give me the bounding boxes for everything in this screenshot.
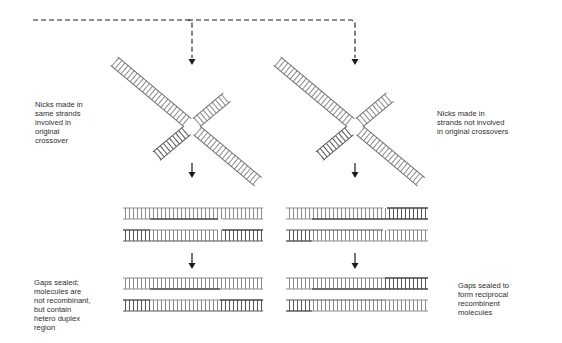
label-line: recombinent (458, 299, 509, 308)
label-line: Gaps sealed to (458, 281, 509, 290)
dashed-connector (33, 20, 359, 65)
label-right-nicks: Nicks made in strands not involved in or… (437, 109, 508, 136)
left-crossover (111, 57, 262, 186)
right-crossover (274, 57, 425, 186)
arrow-down-icon (189, 263, 196, 269)
label-line: Nicks made in (35, 100, 83, 109)
label-line: same strands (35, 109, 83, 118)
label-line: form reciprocal (458, 290, 509, 299)
right-sealed-duplexes (286, 278, 428, 311)
label-line: strands not involved (437, 118, 508, 127)
label-line: Nicks made in (437, 109, 508, 118)
label-left-nicks: Nicks made in same strands involved in o… (35, 100, 83, 145)
arrow-down-icon (352, 263, 359, 269)
label-line: molecules are (34, 287, 91, 296)
label-left-result: Gaps sealed; molecules are not recombina… (34, 278, 91, 332)
label-right-result: Gaps sealed to form reciprocal recombine… (458, 281, 509, 317)
label-line: region (34, 323, 91, 332)
label-line: hetero duplex (34, 314, 91, 323)
left-nicked-duplexes (123, 208, 263, 241)
right-nicked-duplexes (286, 208, 428, 241)
label-line: in original crossovers (437, 127, 508, 136)
label-line: not recombinant, (34, 296, 91, 305)
arrow-down-icon (189, 59, 196, 65)
label-line: original (35, 127, 83, 136)
left-sealed-duplexes (123, 278, 263, 311)
label-line: crossover (35, 136, 83, 145)
arrow-down-icon (352, 59, 359, 65)
label-line: Gaps sealed; (34, 278, 91, 287)
label-line: involved in (35, 118, 83, 127)
label-line: molecules (458, 308, 509, 317)
arrow-down-icon (352, 172, 359, 178)
arrow-down-icon (189, 172, 196, 178)
label-line: but contain (34, 305, 91, 314)
